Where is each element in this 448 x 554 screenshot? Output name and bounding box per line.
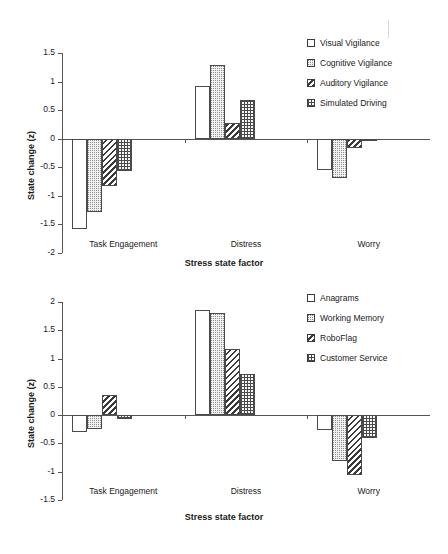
y-tick: [58, 443, 62, 444]
y-axis-line: [62, 302, 63, 500]
y-tick: [58, 53, 62, 54]
y-tick-label: 1.5: [29, 324, 55, 334]
legend-swatch-icon: [307, 354, 315, 362]
y-tick: [58, 359, 62, 360]
y-tick: [58, 224, 62, 225]
bar: [225, 123, 240, 138]
bar: [87, 415, 102, 429]
y-tick-label: 1: [29, 353, 55, 363]
chart-panel-bottom: State change (z) 21.510.50-0.5-1-1.5Task…: [0, 280, 448, 554]
bar: [102, 139, 117, 186]
bar: [72, 415, 87, 431]
y-tick-label: -0.5: [29, 437, 55, 447]
y-tick: [58, 196, 62, 197]
y-tick: [58, 82, 62, 83]
y-tick-label: -2: [29, 247, 55, 257]
bar: [72, 139, 87, 229]
legend-swatch-icon: [307, 79, 315, 87]
legend-item[interactable]: Anagrams: [307, 288, 388, 308]
legend-label: Visual Vigilance: [320, 38, 380, 48]
legend-item[interactable]: Working Memory: [307, 308, 388, 328]
legend-label: Working Memory: [320, 313, 384, 323]
y-tick: [58, 110, 62, 111]
x-category-label: Distress: [185, 239, 308, 249]
x-category-label: Task Engagement: [62, 239, 185, 249]
bar: [87, 139, 102, 212]
bar: [225, 349, 240, 415]
bar: [210, 313, 225, 415]
legend-label: RoboFlag: [320, 333, 357, 343]
y-tick: [58, 253, 62, 254]
y-tick: [58, 387, 62, 388]
y-tick-label: 2: [29, 296, 55, 306]
bar: [362, 139, 377, 141]
legend-label: Simulated Driving: [320, 98, 387, 108]
legend-item[interactable]: Customer Service: [307, 348, 388, 368]
y-tick-label: 0.5: [29, 381, 55, 391]
bar: [332, 139, 347, 178]
y-tick: [58, 500, 62, 501]
x-category-label: Worry: [307, 486, 430, 496]
x-tick: [185, 415, 186, 419]
legend-swatch-icon: [307, 334, 315, 342]
y-tick-label: 0.5: [29, 104, 55, 114]
bar: [347, 139, 362, 149]
legend-label: Cognitive Vigilance: [320, 58, 392, 68]
legend-swatch-icon: [307, 294, 315, 302]
bar: [240, 100, 255, 139]
x-tick: [185, 139, 186, 143]
legend-item[interactable]: Cognitive Vigilance: [307, 53, 392, 73]
legend-swatch-icon: [307, 314, 315, 322]
y-tick-label: 0: [29, 133, 55, 143]
y-tick: [58, 302, 62, 303]
y-tick-label: 1.5: [29, 47, 55, 57]
legend-swatch-icon: [307, 99, 315, 107]
legend-item[interactable]: Simulated Driving: [307, 93, 392, 113]
y-tick-label: -0.5: [29, 161, 55, 171]
bar: [317, 415, 332, 430]
bar: [195, 86, 210, 139]
legend-item[interactable]: RoboFlag: [307, 328, 388, 348]
bar: [332, 415, 347, 461]
bar: [117, 415, 132, 419]
y-tick-label: -1.5: [29, 218, 55, 228]
y-tick-label: -1: [29, 190, 55, 200]
bar: [117, 139, 132, 171]
legend-label: Anagrams: [320, 293, 359, 303]
x-tick: [62, 139, 63, 143]
legend-top: Visual VigilanceCognitive VigilanceAudit…: [307, 33, 392, 113]
bar: [102, 395, 117, 415]
x-category-label: Worry: [307, 239, 430, 249]
x-tick: [62, 415, 63, 419]
legend-label: Customer Service: [320, 353, 388, 363]
x-tick: [307, 139, 308, 143]
x-axis-title-bottom: Stress state factor: [0, 512, 448, 522]
y-axis-line: [62, 53, 63, 253]
bar: [210, 65, 225, 139]
legend-swatch-icon: [307, 39, 315, 47]
figure-root: State change (z) 1.510.50-0.5-1-1.5-2Tas…: [0, 0, 448, 554]
legend-bottom: AnagramsWorking MemoryRoboFlagCustomer S…: [307, 288, 388, 368]
y-tick: [58, 472, 62, 473]
bar: [362, 415, 377, 438]
bar: [240, 374, 255, 415]
y-tick-label: 1: [29, 76, 55, 86]
y-tick: [58, 167, 62, 168]
y-tick-label: -1.5: [29, 494, 55, 504]
x-axis-title-top: Stress state factor: [0, 258, 448, 268]
legend-label: Auditory Vigilance: [320, 78, 388, 88]
x-category-label: Distress: [185, 486, 308, 496]
legend-item[interactable]: Auditory Vigilance: [307, 73, 392, 93]
y-tick-label: 0: [29, 409, 55, 419]
legend-swatch-icon: [307, 59, 315, 67]
y-tick-label: -1: [29, 466, 55, 476]
legend-item[interactable]: Visual Vigilance: [307, 33, 392, 53]
bar: [195, 310, 210, 415]
legend-divider: [388, 20, 389, 38]
y-tick: [58, 330, 62, 331]
bar: [347, 415, 362, 474]
bar: [317, 139, 332, 170]
chart-panel-top: State change (z) 1.510.50-0.5-1-1.5-2Tas…: [0, 0, 448, 280]
x-tick: [307, 415, 308, 419]
x-category-label: Task Engagement: [62, 486, 185, 496]
